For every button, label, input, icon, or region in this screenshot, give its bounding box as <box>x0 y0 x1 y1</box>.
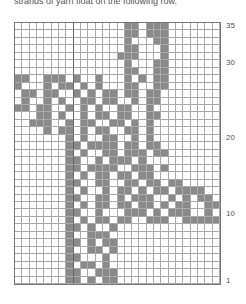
chart-cell <box>88 135 95 142</box>
chart-cell <box>52 38 59 45</box>
chart-cell <box>198 247 205 254</box>
chart-cell <box>66 90 73 97</box>
chart-cell <box>125 23 132 30</box>
chart-cell <box>66 68 73 75</box>
chart-cell <box>37 23 44 30</box>
chart-cell <box>52 150 59 157</box>
chart-cell <box>88 98 95 105</box>
chart-cell <box>22 68 29 75</box>
chart-cell <box>205 232 212 239</box>
chart-cell <box>96 202 103 209</box>
chart-cell <box>213 68 220 75</box>
chart-cell <box>15 232 22 239</box>
chart-cell <box>169 157 176 164</box>
chart-cell <box>110 187 117 194</box>
chart-cell <box>161 135 168 142</box>
chart-cell <box>191 90 198 97</box>
chart-cell <box>66 83 73 90</box>
chart-cell <box>132 30 139 37</box>
chart-cell <box>88 195 95 202</box>
chart-cell <box>52 75 59 82</box>
chart-cell <box>37 224 44 231</box>
chart-cell <box>15 209 22 216</box>
chart-cell <box>81 277 88 284</box>
chart-cell <box>22 75 29 82</box>
chart-cell <box>147 277 154 284</box>
chart-cell <box>183 45 190 52</box>
chart-cell <box>88 172 95 179</box>
chart-cell <box>161 142 168 149</box>
chart-cell <box>59 53 66 60</box>
chart-cell <box>15 60 22 67</box>
chart-cell <box>176 120 183 127</box>
chart-cell <box>88 68 95 75</box>
chart-cell <box>22 157 29 164</box>
chart-cell <box>37 180 44 187</box>
chart-cell <box>176 209 183 216</box>
chart-cell <box>44 90 51 97</box>
chart-cell <box>22 217 29 224</box>
chart-cell <box>132 45 139 52</box>
chart-cell <box>81 150 88 157</box>
chart-cell <box>125 165 132 172</box>
chart-cell <box>169 195 176 202</box>
chart-cell <box>22 209 29 216</box>
chart-cell <box>118 45 125 52</box>
chart-cell <box>191 135 198 142</box>
chart-cell <box>103 53 110 60</box>
chart-cell <box>183 135 190 142</box>
chart-cell <box>30 239 37 246</box>
chart-cell <box>169 90 176 97</box>
chart-cell <box>59 30 66 37</box>
chart-cell <box>125 98 132 105</box>
chart-cell <box>52 142 59 149</box>
chart-cell <box>74 232 81 239</box>
chart-cell <box>125 202 132 209</box>
chart-cell <box>96 232 103 239</box>
chart-cell <box>154 157 161 164</box>
chart-cell <box>139 187 146 194</box>
chart-cell <box>103 112 110 119</box>
chart-cell <box>74 157 81 164</box>
chart-cell <box>118 157 125 164</box>
chart-cell <box>103 83 110 90</box>
chart-cell <box>169 172 176 179</box>
chart-cell <box>81 83 88 90</box>
chart-cell <box>44 38 51 45</box>
chart-cell <box>66 105 73 112</box>
chart-cell <box>30 30 37 37</box>
chart-cell <box>198 209 205 216</box>
chart-cell <box>205 23 212 30</box>
chart-cell <box>74 68 81 75</box>
chart-cell <box>176 135 183 142</box>
chart-cell <box>44 209 51 216</box>
chart-cell <box>88 105 95 112</box>
chart-cell <box>125 142 132 149</box>
chart-cell <box>132 75 139 82</box>
chart-cell <box>183 38 190 45</box>
chart-cell <box>66 209 73 216</box>
chart-cell <box>132 239 139 246</box>
chart-cell <box>213 98 220 105</box>
chart-cell <box>118 239 125 246</box>
chart-cell <box>161 187 168 194</box>
chart-cell <box>81 75 88 82</box>
chart-cell <box>15 142 22 149</box>
chart-cell <box>176 262 183 269</box>
chart-cell <box>110 157 117 164</box>
chart-cell <box>66 75 73 82</box>
chart-cell <box>161 120 168 127</box>
chart-cell <box>66 232 73 239</box>
chart-cell <box>118 247 125 254</box>
chart-cell <box>30 60 37 67</box>
chart-cell <box>161 75 168 82</box>
chart-cell <box>66 23 73 30</box>
chart-cell <box>59 60 66 67</box>
chart-cell <box>52 217 59 224</box>
chart-cell <box>154 60 161 67</box>
chart-cell <box>110 150 117 157</box>
chart-cell <box>103 75 110 82</box>
chart-cell <box>176 269 183 276</box>
chart-cell <box>88 165 95 172</box>
chart-cell <box>139 38 146 45</box>
